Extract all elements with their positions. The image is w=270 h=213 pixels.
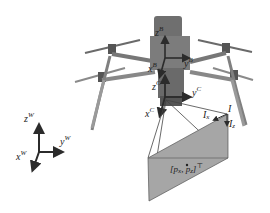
label-zW: zW [24,114,34,124]
label-projected-point: [px, pz]⊤ [170,165,203,174]
label-xW: xW [16,152,26,162]
label-I: I [228,104,231,114]
image-plane [148,114,228,201]
label-xB: xB [148,64,157,74]
label-yB: yB [184,59,193,69]
label-xC: xC [145,109,154,119]
label-yC: yC [192,88,201,98]
label-zB: zB [155,28,163,38]
label-Iz: Iz [229,119,235,129]
diagram-canvas: zB yB xB zC yC xC I Ix Iz [px, pz]⊤ zW y… [0,0,270,213]
label-zC: zC [152,82,161,92]
label-yW: yW [60,137,70,147]
world-frame-axes [33,126,61,169]
label-Ix: Ix [203,110,209,120]
